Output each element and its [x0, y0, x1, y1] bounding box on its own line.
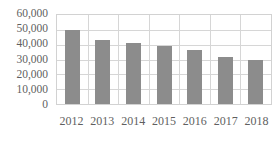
y-axis: 60,000 50,000 40,000 30,000 20,000 10,00… — [0, 14, 52, 105]
y-axis-tick-label: 50,000 — [0, 23, 48, 35]
bar-2014[interactable] — [126, 43, 141, 104]
bar-slot — [240, 15, 271, 104]
bar-2018[interactable] — [248, 60, 263, 105]
x-axis-tick-label: 2014 — [118, 110, 149, 132]
bar-2017[interactable] — [218, 57, 233, 104]
x-axis-tick-label: 2015 — [149, 110, 180, 132]
y-axis-tick-label: 60,000 — [0, 8, 48, 20]
y-axis-tick-label: 20,000 — [0, 69, 48, 81]
y-axis-tick-label: 10,000 — [0, 84, 48, 96]
bar-slot — [88, 15, 119, 104]
bar-slot — [118, 15, 149, 104]
bar-2015[interactable] — [157, 46, 172, 104]
bar-2012[interactable] — [65, 30, 80, 104]
bars-layer — [57, 15, 271, 104]
x-axis-tick-label: 2018 — [241, 110, 272, 132]
x-axis-tick-label: 2013 — [87, 110, 118, 132]
bar-slot — [179, 15, 210, 104]
x-axis-tick-label: 2012 — [56, 110, 87, 132]
bar-slot — [210, 15, 241, 104]
y-axis-tick-label: 40,000 — [0, 39, 48, 51]
bar-chart: 60,000 50,000 40,000 30,000 20,000 10,00… — [0, 0, 278, 145]
bar-slot — [57, 15, 88, 104]
bar-2016[interactable] — [187, 50, 202, 104]
y-axis-tick-label: 0 — [0, 99, 48, 111]
bar-2013[interactable] — [95, 40, 110, 104]
x-axis-tick-label: 2016 — [179, 110, 210, 132]
x-axis-tick-label: 2017 — [210, 110, 241, 132]
bar-slot — [149, 15, 180, 104]
plot-area — [56, 14, 272, 105]
x-axis: 2012 2013 2014 2015 2016 2017 2018 — [56, 110, 272, 132]
y-axis-tick-label: 30,000 — [0, 54, 48, 66]
